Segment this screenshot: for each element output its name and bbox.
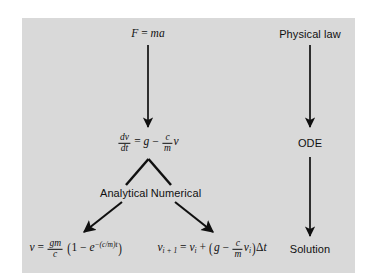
dt-denominator: dt [118, 144, 130, 154]
figure-canvas: F = ma dvdt = g − cmv Analytical Numeric… [0, 0, 377, 278]
equation-rhs-m: m [151, 27, 159, 39]
v-next-subscript: i + 1 [163, 246, 178, 255]
m-denominator: m [233, 250, 243, 260]
right-paren: ) [118, 241, 122, 256]
branch-label-numerical: Numerical [151, 188, 201, 199]
m-denominator: m [163, 144, 173, 154]
equation-rhs-a: a [159, 27, 165, 39]
branch-label-analytical: Analytical [100, 188, 148, 199]
physical-law-equation: F = ma [131, 28, 164, 40]
dv-dt-fraction: dvdt [118, 133, 130, 153]
delta-symbol: Δ [256, 241, 263, 253]
v-inner-subscript: i [249, 246, 251, 255]
right-paren: ) [252, 241, 256, 256]
numerical-solution-equation: vi + 1 = vi + (g − cmvi)Δt [157, 239, 266, 259]
c-over-m-fraction: cm [233, 239, 243, 259]
gm-over-c-fraction: gmc [48, 239, 63, 259]
c-denominator: c [48, 250, 63, 260]
equation-lhs: F [131, 27, 138, 39]
c-over-m-fraction: cm [163, 133, 173, 153]
stage-label-physical-law: Physical law [279, 29, 341, 40]
stage-label-ode: ODE [298, 138, 322, 149]
left-paren: ( [67, 241, 71, 256]
stage-label-solution: Solution [290, 244, 331, 255]
analytical-solution-equation: v = gmc (1 − e−(c/m)t) [30, 239, 123, 259]
v-term: v [173, 135, 178, 147]
left-paren: ( [210, 241, 214, 256]
exponent-term: −(c/m)t [95, 240, 118, 249]
t-term: t [263, 241, 266, 253]
ode-equation: dvdt = g − cmv [117, 133, 178, 153]
